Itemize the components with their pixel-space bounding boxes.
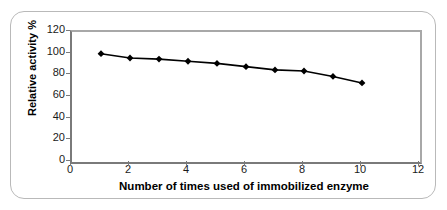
data-point-marker bbox=[185, 58, 192, 65]
data-point-marker bbox=[156, 56, 163, 63]
data-point-marker bbox=[243, 63, 250, 70]
y-axis-title: Relative activity % bbox=[26, 0, 38, 138]
data-point-marker bbox=[272, 67, 279, 74]
plot-area bbox=[70, 30, 422, 164]
chart-root: 020406080100120 Relative activity % 0246… bbox=[0, 0, 447, 210]
x-tick-mark bbox=[360, 161, 361, 166]
x-axis-title: Number of times used of immobilized enzy… bbox=[70, 180, 418, 192]
series-markers bbox=[98, 50, 366, 86]
data-point-marker bbox=[301, 68, 308, 75]
data-point-marker bbox=[127, 55, 134, 62]
x-tick-mark bbox=[418, 161, 419, 166]
data-point-marker bbox=[98, 50, 105, 57]
x-tick-mark bbox=[244, 161, 245, 166]
x-tick-mark bbox=[70, 161, 71, 166]
x-tick-mark bbox=[128, 161, 129, 166]
x-tick-mark bbox=[186, 161, 187, 166]
data-point-marker bbox=[214, 60, 221, 67]
line-series bbox=[72, 32, 420, 162]
data-point-marker bbox=[359, 80, 366, 87]
data-point-marker bbox=[330, 73, 337, 80]
x-tick-mark bbox=[302, 161, 303, 166]
series-line bbox=[101, 54, 362, 83]
